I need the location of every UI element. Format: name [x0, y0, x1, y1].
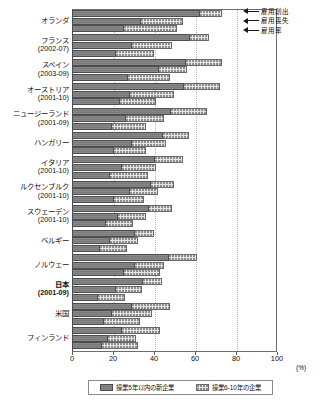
- x-tick-label: 20: [109, 354, 117, 363]
- category-period: (2001-10): [27, 216, 69, 225]
- bar-rate: [72, 98, 156, 105]
- bar-segment-6to10: [140, 18, 183, 25]
- measure-legend-label: 雇用創出: [259, 8, 289, 15]
- bar-segment-6to10: [113, 147, 146, 154]
- bar-segment-new5: [72, 147, 113, 154]
- bar-creation: [72, 327, 160, 334]
- category-name: ニュージーランド: [13, 109, 69, 118]
- bar-segment-6to10: [105, 220, 134, 227]
- bar-segment-new5: [72, 262, 134, 269]
- bar-creation: [72, 303, 170, 310]
- bar-segment-6to10: [170, 108, 207, 115]
- bar-segment-new5: [72, 327, 121, 334]
- bar-loss: [72, 286, 142, 293]
- bar-segment-new5: [72, 278, 142, 285]
- bar-segment-new5: [72, 132, 162, 139]
- bar-segment-new5: [72, 164, 121, 171]
- bar-segment-new5: [72, 342, 101, 349]
- bar-segment-6to10: [148, 205, 173, 212]
- category-label: ルクセンブルク(2001-10): [20, 183, 69, 200]
- bar-segment-new5: [72, 294, 97, 301]
- swatch-dotted-icon: [196, 384, 209, 391]
- left-arrow-icon: [243, 17, 259, 24]
- bar-loss: [72, 262, 164, 269]
- bar-segment-6to10: [131, 303, 170, 310]
- bar-segment-6to10: [113, 196, 144, 203]
- category-label: 米国: [55, 310, 69, 319]
- bar-loss: [72, 237, 138, 244]
- bar-rate: [72, 294, 125, 301]
- bar-loss: [72, 310, 152, 317]
- category-label: ハンガリー: [34, 139, 69, 148]
- bar-segment-6to10: [142, 278, 163, 285]
- bar-segment-6to10: [99, 245, 128, 252]
- category-period: (2001-09): [38, 289, 69, 298]
- bar-rate: [72, 196, 144, 203]
- bar-segment-new5: [72, 18, 140, 25]
- category-label: フィンランド: [27, 334, 69, 343]
- bar-segment-6to10: [154, 156, 183, 163]
- bar-creation: [72, 181, 175, 188]
- bar-segment-6to10: [117, 213, 146, 220]
- bar-loss: [72, 140, 166, 147]
- bar-loss: [72, 164, 156, 171]
- bar-segment-new5: [72, 83, 183, 90]
- bar-creation: [72, 108, 207, 115]
- bar-loss: [72, 335, 136, 342]
- bar-loss: [72, 115, 164, 122]
- bar-segment-6to10: [109, 172, 148, 179]
- bar-rate: [72, 269, 160, 276]
- x-tick-label: 0: [70, 354, 74, 363]
- bar-segment-6to10: [101, 342, 138, 349]
- category-label: スウェーデン(2001-10): [27, 208, 69, 225]
- x-tick-label: 80: [232, 354, 240, 363]
- bar-segment-new5: [72, 115, 125, 122]
- bar-segment-6to10: [129, 91, 174, 98]
- measure-arrow-legend: 雇用創出 雇用喪失 雇用率: [243, 7, 321, 36]
- category-period: (2001-10): [20, 192, 69, 201]
- series-legend-item-new5: 操業5年以内の新企業: [100, 384, 174, 391]
- bar-loss: [72, 188, 158, 195]
- category-label: フランス(2002-07): [38, 37, 69, 54]
- x-tick-label: 40: [150, 354, 158, 363]
- bar-segment-6to10: [134, 262, 165, 269]
- bar-segment-new5: [72, 196, 113, 203]
- bar-segment-6to10: [129, 188, 158, 195]
- category-period: (2003-09): [38, 70, 69, 79]
- bar-creation: [72, 132, 189, 139]
- bar-segment-new5: [72, 172, 109, 179]
- bar-segment-new5: [72, 50, 115, 57]
- left-arrow-icon: [243, 8, 259, 15]
- category-label: ノルウェー: [34, 261, 69, 270]
- bar-segment-new5: [72, 25, 123, 32]
- bar-segment-new5: [72, 108, 170, 115]
- bar-rate: [72, 245, 127, 252]
- bar-segment-6to10: [199, 10, 222, 17]
- bar-segment-6to10: [111, 123, 146, 130]
- bar-segment-6to10: [107, 335, 136, 342]
- bar-segment-new5: [72, 66, 158, 73]
- bar-creation: [72, 156, 183, 163]
- bar-segment-6to10: [131, 140, 166, 147]
- bar-segment-6to10: [134, 230, 155, 237]
- measure-legend-item-loss: 雇用喪失: [243, 17, 321, 25]
- category-name: フィンランド: [27, 333, 69, 342]
- bar-segment-6to10: [115, 286, 142, 293]
- bar-segment-6to10: [162, 132, 189, 139]
- category-name: ハンガリー: [34, 138, 69, 147]
- bar-segment-new5: [72, 286, 115, 293]
- bar-creation: [72, 230, 154, 237]
- bar-rate: [72, 172, 148, 179]
- bar-segment-new5: [72, 318, 103, 325]
- bar-segment-new5: [72, 123, 111, 130]
- bar-segment-6to10: [168, 254, 197, 261]
- bar-creation: [72, 59, 222, 66]
- bar-rate: [72, 123, 146, 130]
- x-tick-label: 60: [191, 354, 199, 363]
- bar-segment-6to10: [123, 25, 176, 32]
- bar-segment-6to10: [185, 59, 222, 66]
- bar-segment-6to10: [119, 98, 156, 105]
- bar-creation: [72, 278, 162, 285]
- category-label: オーストリア(2001-10): [27, 86, 69, 103]
- bar-segment-new5: [72, 245, 99, 252]
